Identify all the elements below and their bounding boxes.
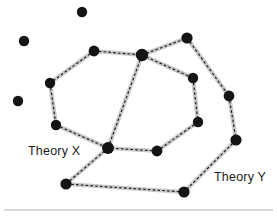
graph-node[interactable] (224, 91, 235, 102)
graph-node[interactable] (152, 146, 163, 157)
graph-edge-halo (50, 51, 94, 83)
graph-edge (142, 38, 187, 55)
graph-node[interactable] (102, 142, 114, 154)
graph-node[interactable] (181, 32, 192, 43)
graph-node-isolated[interactable] (19, 36, 29, 46)
cluster-label-theory-x: Theory X (28, 144, 81, 158)
graph-edge-halo (142, 55, 193, 78)
graph-node-isolated[interactable] (13, 96, 23, 106)
graph-node[interactable] (178, 186, 189, 197)
graph-node[interactable] (188, 73, 198, 83)
graph-node[interactable] (193, 117, 203, 127)
graph-edge (108, 55, 142, 148)
graph-node[interactable] (89, 46, 100, 57)
graph-node[interactable] (45, 78, 55, 88)
cluster-label-theory-y: Theory Y (214, 170, 267, 184)
graph-node[interactable] (51, 120, 61, 130)
graph-node[interactable] (230, 134, 241, 145)
diagram-canvas: Theory XTheory Y (0, 0, 277, 216)
graph-node[interactable] (136, 49, 148, 61)
graph-node-isolated[interactable] (77, 7, 87, 17)
network-diagram-svg: Theory XTheory Y (0, 0, 277, 216)
graph-node[interactable] (60, 178, 71, 189)
